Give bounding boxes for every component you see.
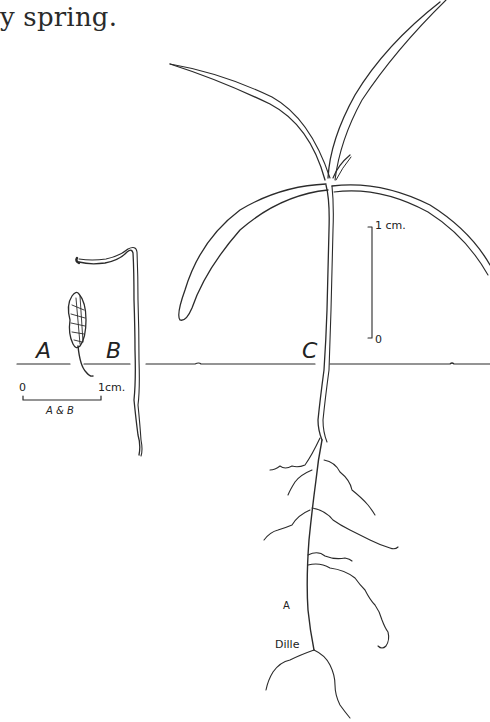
scale-ab-end: 1cm.	[98, 381, 125, 394]
scale-c-bottom: 0	[375, 333, 382, 346]
panel-label-b: B	[106, 338, 121, 363]
panel-label-c: C	[302, 338, 317, 363]
illustrator-signature: Dille	[275, 638, 299, 651]
scale-ab-caption: A & B	[46, 405, 74, 416]
seedling-illustration	[0, 0, 490, 722]
scale-ab-start: 0	[19, 381, 26, 394]
scale-bar-c	[368, 227, 372, 338]
root-mark-label: A	[283, 600, 290, 611]
scale-c-top: 1 cm.	[375, 219, 406, 232]
scale-bar-ab	[23, 396, 101, 400]
ground-line	[17, 363, 490, 364]
panel-label-a: A	[36, 338, 51, 363]
seedling-c	[170, 0, 490, 718]
